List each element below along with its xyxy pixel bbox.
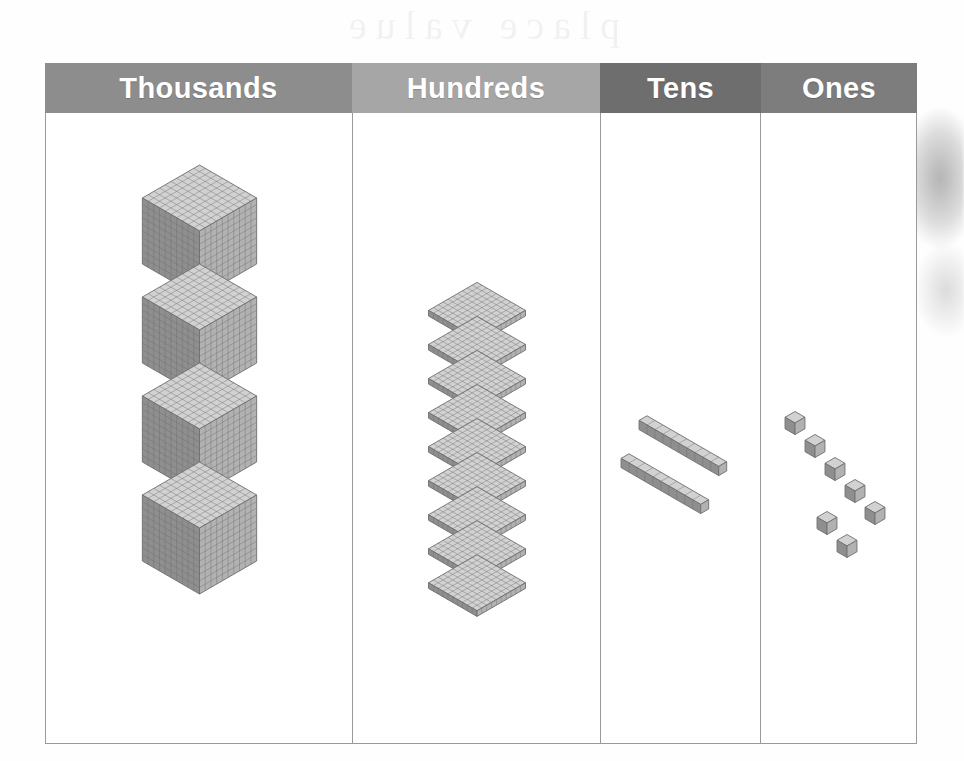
column-header-hundreds: Hundreds [352, 63, 600, 113]
column-header-label: Thousands [119, 74, 277, 103]
column-cell-tens [600, 113, 761, 743]
column-header-label: Ones [802, 74, 876, 103]
thousand-cube-stack [46, 113, 352, 743]
column-cell-thousands [46, 113, 352, 743]
chart-header-row: Thousands Hundreds Tens Ones [45, 63, 917, 113]
column-cell-ones [760, 113, 916, 743]
hundred-flats-group [353, 113, 599, 743]
column-cell-hundreds [352, 113, 599, 743]
place-value-chart: Thousands Hundreds Tens Ones [45, 63, 917, 744]
hundred-flat-stack [353, 113, 599, 743]
column-header-ones: Ones [761, 63, 917, 113]
one-unit-group [761, 113, 916, 743]
column-header-thousands: Thousands [45, 63, 352, 113]
ten-rods-group [601, 113, 761, 743]
chart-body-row [45, 113, 917, 744]
thousand-cubes-group [46, 113, 352, 743]
column-header-label: Tens [647, 74, 714, 103]
bleed-through-top-text: place value [120, 2, 620, 52]
ten-rod-group [601, 113, 761, 743]
column-header-label: Hundreds [407, 74, 546, 103]
column-header-tens: Tens [600, 63, 761, 113]
one-units-group [761, 113, 916, 743]
